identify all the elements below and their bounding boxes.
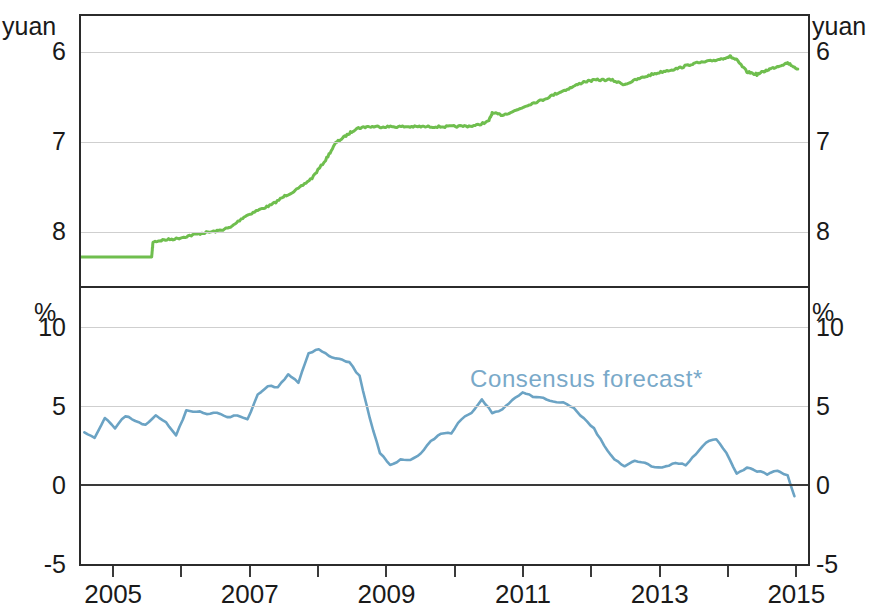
gridline-6 [81, 52, 808, 53]
x-tick-2010 [454, 566, 456, 577]
yright1-tick-6: 6 [816, 39, 876, 64]
x-axis-label-2013: 2013 [631, 580, 689, 608]
x-tick-2005 [112, 566, 114, 577]
yleft1-tick-8: 8 [0, 219, 66, 244]
x-tick-2015 [795, 566, 797, 577]
panel1-right-axis: 678 [814, 14, 876, 288]
x-tick-2006 [180, 566, 182, 577]
yleft1-tick-6: 6 [0, 39, 66, 64]
yright2-tick-neg5: -5 [816, 552, 876, 577]
panel2-right-axis: 1050-5 [814, 288, 876, 566]
yleft2-tick-neg5: -5 [0, 552, 66, 577]
spot-rate-line-series [81, 16, 808, 286]
yleft2-tick-10: 10 [0, 315, 66, 340]
x-axis-label-2009: 2009 [358, 580, 416, 608]
x-tick-2009 [385, 566, 387, 577]
x-axis: 200520072009201120132015 [79, 566, 810, 612]
x-axis-label-2007: 2007 [221, 580, 279, 608]
yleft2-tick-0: 0 [0, 473, 66, 498]
x-tick-2008 [317, 566, 319, 577]
gridline-10 [81, 327, 808, 328]
yleft1-tick-7: 7 [0, 129, 66, 154]
x-tick-2011 [522, 566, 524, 577]
yright2-tick-10: 10 [816, 315, 876, 340]
yright2-tick-0: 0 [816, 473, 876, 498]
x-axis-label-2011: 2011 [495, 580, 551, 608]
consensus-forecast-legend-label: Consensus forecast* [470, 366, 703, 392]
x-tick-2013 [659, 566, 661, 577]
consensus-forecast-line-series [81, 288, 808, 564]
zero-line [81, 484, 808, 486]
x-axis-label-2015: 2015 [767, 580, 825, 608]
gridline-5 [81, 406, 808, 407]
gridline-8 [81, 232, 808, 233]
x-tick-2014 [727, 566, 729, 577]
panel1-left-axis: 678 [0, 14, 72, 288]
yright1-tick-7: 7 [816, 129, 876, 154]
yright2-tick-5: 5 [816, 394, 876, 419]
x-tick-2012 [590, 566, 592, 577]
x-axis-label-2005: 2005 [84, 580, 142, 608]
appreciation-plot-area [79, 288, 810, 566]
spot-rate-plot-area [79, 14, 810, 288]
yleft2-tick-5: 5 [0, 394, 66, 419]
figure-canvas: yuan yuan % % Spot rate against US$, inv… [0, 0, 876, 615]
x-tick-2007 [249, 566, 251, 577]
gridline-7 [81, 142, 808, 143]
yright1-tick-8: 8 [816, 219, 876, 244]
panel2-left-axis: 1050-5 [0, 288, 72, 566]
